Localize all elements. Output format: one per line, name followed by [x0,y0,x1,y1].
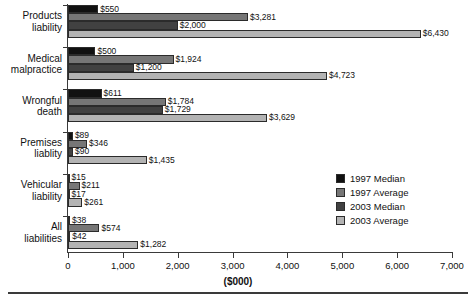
bar[interactable] [68,132,73,140]
x-tick-label: 0 [65,260,70,271]
bar[interactable] [68,198,82,206]
category-tick [63,174,67,175]
bar[interactable] [68,30,421,38]
x-tick [178,253,179,258]
legend-label: 2003 Median [350,201,405,212]
bar-value-label: $1,435 [149,155,175,165]
category-tick [63,47,67,48]
legend-swatch [336,174,345,183]
category-label: Medicalmalpractice [0,53,62,76]
bar-row: $1,282 [68,241,452,249]
x-tick-label: 6,000 [385,260,409,271]
bar-value-label: $1,924 [176,54,202,64]
legend-swatch [336,202,345,211]
category-label: Allliabilities [0,221,62,244]
bar-row: $90 [68,148,452,156]
bar[interactable] [68,241,138,249]
bar[interactable] [68,21,178,29]
category-tick [63,216,67,217]
x-axis-title: ($000) [0,276,476,287]
bar[interactable] [68,72,327,80]
legend-label: 1997 Average [350,187,408,198]
x-tick-label: 3,000 [221,260,245,271]
bar-value-label: $346 [89,138,108,148]
x-tick [123,253,124,258]
bar-chart: Productsliability$550$3,281$2,000$6,430M… [0,0,476,301]
bar-value-label: $90 [75,146,89,156]
bar[interactable] [68,13,248,21]
category-label-line: liabilities [0,233,62,245]
bar[interactable] [68,5,98,13]
x-tick [68,253,69,258]
bottom-divider [8,292,468,294]
legend-item[interactable]: 1997 Average [336,185,408,199]
bar[interactable] [68,174,70,182]
x-tick [452,253,453,258]
bar-row: $3,629 [68,114,452,122]
category-tick [63,89,67,90]
category-label: Productsliability [0,10,62,33]
category-label-line: Premises [0,137,62,149]
bar-value-label: $574 [101,223,120,233]
bar-row: $500 [68,47,452,55]
x-tick-label: 7,000 [440,260,464,271]
bar-value-label: $500 [97,46,116,56]
bar[interactable] [68,190,70,198]
x-tick [287,253,288,258]
bar-row: $346 [68,140,452,148]
bar-row: $1,924 [68,55,452,63]
category-label-line: All [0,221,62,233]
bar[interactable] [68,64,134,72]
legend-item[interactable]: 2003 Median [336,199,408,213]
bar[interactable] [68,216,70,224]
legend-swatch [336,216,345,225]
bar-value-label: $550 [100,4,119,14]
bar[interactable] [68,47,95,55]
x-tick-label: 5,000 [330,260,354,271]
x-tick [233,253,234,258]
legend-label: 2003 Average [350,215,408,226]
bar-row: $1,729 [68,106,452,114]
bar-row: $89 [68,132,452,140]
category-label-line: Wrongful [0,95,62,107]
bar-value-label: $38 [72,215,86,225]
category-label-line: Medical [0,53,62,65]
bar-group: Medicalmalpractice$500$1,924$1,200$4,723 [0,47,476,89]
bar-group: Productsliability$550$3,281$2,000$6,430 [0,5,476,47]
category-label: Premisesliablity [0,137,62,160]
x-tick-label: 2,000 [166,260,190,271]
bar-value-label: $89 [75,130,89,140]
bar-row: $3,281 [68,13,452,21]
legend-item[interactable]: 1997 Median [336,171,408,185]
category-label-line: Products [0,10,62,22]
bar-row: $1,435 [68,156,452,164]
category-label: Vehicularliability [0,179,62,202]
category-label: Wrongfuldeath [0,95,62,118]
bar-value-label: $4,723 [329,70,355,80]
category-tick [63,5,67,6]
legend-swatch [336,188,345,197]
bar[interactable] [68,156,147,164]
bar[interactable] [68,148,73,156]
legend-label: 1997 Median [350,173,405,184]
bar-row: $1,784 [68,98,452,106]
bar-value-label: $42 [72,231,86,241]
bar[interactable] [68,232,70,240]
bar-value-label: $2,000 [180,20,206,30]
bar-value-label: $611 [104,88,122,98]
legend-item[interactable]: 2003 Average [336,213,408,227]
bar-value-label: $1,282 [140,239,166,249]
bar-row: $4,723 [68,72,452,80]
category-label-line: malpractice [0,64,62,76]
category-tick [63,132,67,133]
bar[interactable] [68,89,102,97]
bar[interactable] [68,114,267,122]
bar[interactable] [68,106,163,114]
x-tick [342,253,343,258]
bar-row: $6,430 [68,30,452,38]
x-tick-label: 1,000 [111,260,135,271]
category-label-line: Vehicular [0,179,62,191]
bar[interactable] [68,98,166,106]
bar-row: $1,200 [68,64,452,72]
category-label-line: liablity [0,148,62,160]
